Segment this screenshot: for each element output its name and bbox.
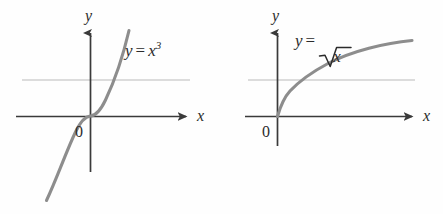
x-axis-label-sqrt: x xyxy=(423,108,430,124)
equation-base-cubic: x xyxy=(148,41,156,60)
equation-equals-sqrt: = xyxy=(303,31,319,50)
equation-equals-cubic: = xyxy=(133,41,149,60)
origin-label-cubic: 0 xyxy=(75,124,83,140)
equation-lhs-cubic: y xyxy=(125,41,133,60)
y-axis-label-cubic: y xyxy=(85,8,92,24)
origin-label-sqrt: 0 xyxy=(262,124,270,140)
equation-label-cubic: y=x3 xyxy=(125,40,161,59)
x-axis-label-cubic: x xyxy=(197,108,204,124)
radicand-sqrt: x xyxy=(333,48,341,65)
figure-canvas xyxy=(0,0,443,214)
panel-cubic xyxy=(16,31,190,201)
math-figure: y=x3 y x 0 y= x y x 0 xyxy=(0,0,443,214)
y-axis-label-sqrt: y xyxy=(272,8,279,24)
equation-label-sqrt: y= x xyxy=(295,32,318,49)
curve-cubic xyxy=(47,31,130,201)
equation-exponent-cubic: 3 xyxy=(156,39,162,51)
equation-lhs-sqrt: y xyxy=(295,31,303,50)
